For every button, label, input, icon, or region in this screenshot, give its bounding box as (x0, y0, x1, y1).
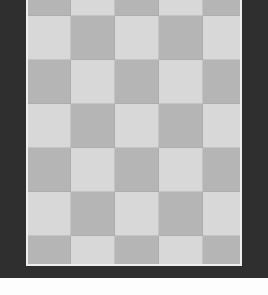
board-square[interactable] (28, 192, 71, 236)
board-square[interactable] (71, 148, 115, 192)
board-square[interactable] (159, 236, 203, 264)
board-square[interactable] (28, 16, 71, 60)
board-square[interactable] (71, 104, 115, 148)
board-square[interactable] (203, 60, 240, 104)
game-board[interactable] (28, 0, 240, 264)
board-square[interactable] (28, 236, 71, 264)
board-square[interactable] (28, 0, 71, 16)
board-square[interactable] (159, 16, 203, 60)
board-square[interactable] (28, 104, 71, 148)
board-square[interactable] (115, 60, 159, 104)
board-square[interactable] (159, 60, 203, 104)
board-frame (0, 0, 268, 278)
board-square[interactable] (115, 236, 159, 264)
page-bottom-margin (0, 278, 268, 295)
board-square[interactable] (203, 148, 240, 192)
board-square[interactable] (115, 16, 159, 60)
board-square[interactable] (71, 192, 115, 236)
board-square[interactable] (28, 148, 71, 192)
board-square[interactable] (115, 148, 159, 192)
board-square[interactable] (203, 192, 240, 236)
board-square[interactable] (71, 60, 115, 104)
board-square[interactable] (159, 104, 203, 148)
board-square[interactable] (159, 148, 203, 192)
board-square[interactable] (71, 0, 115, 16)
board-square[interactable] (203, 236, 240, 264)
board-square[interactable] (71, 16, 115, 60)
board-square[interactable] (159, 192, 203, 236)
board-square[interactable] (203, 16, 240, 60)
board-square[interactable] (203, 0, 240, 16)
board-square[interactable] (115, 0, 159, 16)
board-square[interactable] (115, 192, 159, 236)
board-square[interactable] (203, 104, 240, 148)
board-square[interactable] (115, 104, 159, 148)
board-square[interactable] (71, 236, 115, 264)
board-square[interactable] (28, 60, 71, 104)
board-square[interactable] (159, 0, 203, 16)
